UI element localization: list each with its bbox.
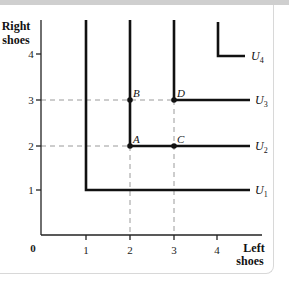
label-u2: U2 xyxy=(255,139,268,155)
label-u4: U4 xyxy=(251,49,264,65)
point-c xyxy=(171,143,177,149)
guide-lines xyxy=(41,100,174,235)
x-tick-3: 3 xyxy=(171,244,177,256)
label-u3: U3 xyxy=(255,93,268,109)
y-tick-2: 2 xyxy=(28,140,34,152)
curve-u1 xyxy=(86,20,250,190)
y-axis-title-line2: shoes xyxy=(2,33,30,47)
y-tick-4: 4 xyxy=(28,48,34,60)
label-b: B xyxy=(133,87,140,99)
indifference-curves xyxy=(86,20,250,190)
y-tick-1: 1 xyxy=(28,184,34,196)
x-tick-4: 4 xyxy=(214,244,220,256)
label-d: D xyxy=(176,87,185,99)
curve-u4 xyxy=(218,22,245,56)
curve-labels: U1 U2 U3 U4 xyxy=(251,49,268,199)
y-tick-3: 3 xyxy=(28,94,34,106)
x-tick-1: 1 xyxy=(83,244,89,256)
point-a xyxy=(127,143,133,149)
label-a: A xyxy=(132,133,140,145)
x-axis-title-line2: shoes xyxy=(236,254,264,268)
label-c: C xyxy=(177,133,185,145)
curve-u3 xyxy=(174,20,250,100)
x-axis-title-line1: Left xyxy=(243,241,264,255)
y-axis-title-line1: Right xyxy=(2,19,31,33)
label-u1: U1 xyxy=(255,183,268,199)
indifference-curves-chart: Right shoes Left shoes 0 1 2 3 4 4 3 2 1… xyxy=(0,0,289,281)
origin-label: 0 xyxy=(30,242,36,254)
point-b xyxy=(127,97,133,103)
curve-u2 xyxy=(130,20,250,146)
point-d xyxy=(171,97,177,103)
x-tick-2: 2 xyxy=(127,244,133,256)
axes xyxy=(36,20,262,240)
tick-labels: 0 1 2 3 4 4 3 2 1 xyxy=(28,48,220,256)
point-labels: A B C D xyxy=(132,87,185,145)
